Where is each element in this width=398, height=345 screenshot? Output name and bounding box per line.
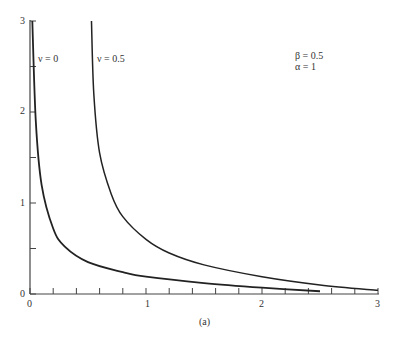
axes — [30, 20, 379, 294]
curve-nu-0 — [32, 21, 320, 291]
y-tick-label-0: 0 — [20, 288, 25, 299]
chart: 3 2 1 0 0 1 2 3 ν = 0 ν = 0.5 β = 0.5 α … — [0, 0, 398, 345]
x-ticks — [30, 288, 378, 294]
y-tick-label-3: 3 — [20, 15, 25, 26]
y-tick-label-1: 1 — [20, 197, 25, 208]
label-nu-0.5: ν = 0.5 — [97, 53, 125, 64]
caption: (a) — [199, 316, 210, 328]
x-tick-label-2: 2 — [259, 298, 264, 309]
annotation-beta: β = 0.5 — [295, 50, 323, 61]
annotation-alpha: α = 1 — [295, 61, 316, 72]
x-tick-label-0: 0 — [27, 298, 32, 309]
y-tick-label-2: 2 — [20, 105, 25, 116]
x-tick-label-3: 3 — [375, 298, 380, 309]
label-nu-0: ν = 0 — [38, 53, 58, 64]
curve-nu-0.5 — [91, 21, 378, 290]
x-tick-label-1: 1 — [145, 298, 150, 309]
